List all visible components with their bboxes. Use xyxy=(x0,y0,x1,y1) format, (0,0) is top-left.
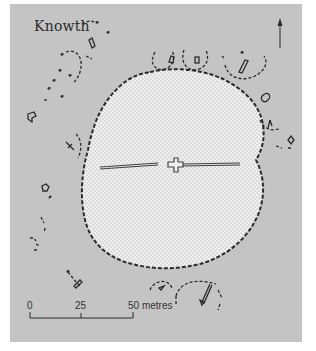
scale-bar xyxy=(30,312,133,318)
satellite-tombs-northwest xyxy=(28,21,109,122)
north-arrow-icon xyxy=(278,18,283,48)
site-plan xyxy=(0,0,316,351)
satellite-tombs-east xyxy=(260,93,294,148)
scale-tick-0: 0 xyxy=(27,300,33,311)
scale-tick-25: 25 xyxy=(75,300,86,311)
east-passage xyxy=(182,164,240,165)
scale-tick-50: 50 metres xyxy=(128,300,172,311)
satellite-tombs-west xyxy=(30,134,81,250)
